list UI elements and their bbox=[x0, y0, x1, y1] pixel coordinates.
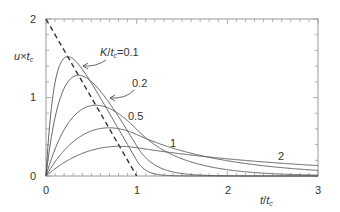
annotation-k2: 2 bbox=[278, 150, 284, 162]
y-tick-2: 2 bbox=[30, 13, 36, 25]
arrow-k02 bbox=[110, 90, 134, 98]
x-axis-label: t/tc bbox=[260, 194, 273, 207]
annotation-k01: K/tc=0.1 bbox=[100, 46, 139, 59]
arrow-k01 bbox=[83, 60, 106, 66]
x-tick-0: 0 bbox=[43, 184, 49, 196]
y-axis-label: u×tc bbox=[14, 50, 34, 63]
x-tick-2: 2 bbox=[225, 184, 231, 196]
annotation-k02: 0.2 bbox=[132, 77, 147, 89]
y-tick-0: 0 bbox=[30, 170, 36, 182]
curve-k-0_5 bbox=[46, 105, 318, 176]
x-tick-3: 3 bbox=[315, 184, 321, 196]
y-tick-1: 1 bbox=[30, 91, 36, 103]
annotation-k05: 0.5 bbox=[128, 110, 143, 122]
chart: 2 1 0 0 1 2 3 u×tc t/tc K/tc=0.1 0.2 0.5… bbox=[0, 0, 340, 212]
input-dashed-line bbox=[46, 19, 137, 176]
x-tick-1: 1 bbox=[134, 184, 140, 196]
annotation-k1: 1 bbox=[170, 137, 176, 149]
